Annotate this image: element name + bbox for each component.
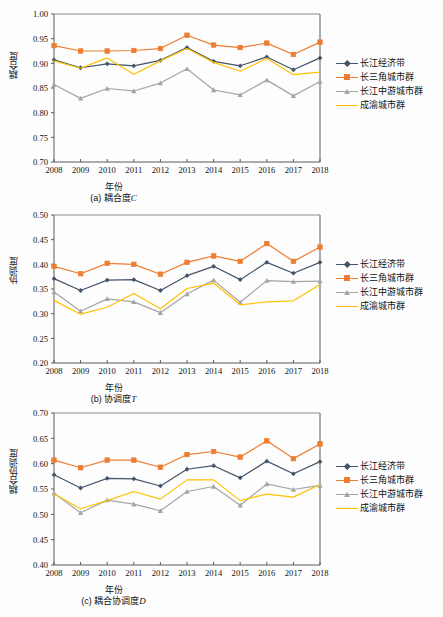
y-tick-label: 0.70 (33, 408, 48, 418)
x-tick-label: 2013 (178, 165, 195, 175)
caption-b-symbol: T (131, 394, 136, 404)
legend-item: 长三角城市群 (336, 70, 423, 84)
series-marker (78, 271, 83, 276)
caption-c: (c) 耦合协调度D (0, 594, 335, 607)
series-marker (291, 259, 296, 264)
x-tick-label: 2012 (152, 568, 169, 578)
x-tick-label: 2012 (152, 165, 169, 175)
x-tick-label: 2009 (72, 165, 89, 175)
legend-item: 长江经济带 (336, 56, 423, 70)
series-marker (318, 442, 323, 447)
series-marker (318, 56, 323, 61)
y-tick-label: 0.45 (33, 235, 48, 245)
chart-panel-c: 0.400.450.500.550.600.650.70200820092010… (0, 405, 443, 617)
caption-b: (b) 协调度T (0, 392, 335, 405)
x-tick-label: 2013 (178, 366, 195, 376)
legend-swatch-icon (336, 300, 358, 312)
series-marker (291, 456, 296, 461)
y-tick-label: 1.00 (33, 9, 48, 19)
legend-c: 长江经济带长三角城市群长江中游城市群成渝城市群 (336, 459, 423, 515)
y-tick-label: 0.75 (33, 133, 48, 143)
series-marker (265, 41, 270, 46)
x-tick-label: 2014 (205, 568, 223, 578)
series-marker (291, 271, 296, 276)
y-axis-title-c: 耦合协调度 (6, 449, 19, 494)
caption-a-text: (a) 耦合度 (90, 193, 131, 203)
y-axis-title-b: 协调度 (6, 257, 19, 284)
series-marker (185, 260, 190, 265)
x-tick-label: 2015 (232, 165, 249, 175)
legend-item-label: 长三角城市群 (360, 473, 414, 487)
series-marker (78, 465, 83, 470)
series-marker (52, 264, 57, 269)
caption-c-text: (c) 耦合协调度 (81, 596, 139, 606)
series-line (54, 283, 320, 314)
legend-swatch-icon (336, 272, 358, 284)
y-axis-title-a: 耦合度 (6, 52, 19, 79)
x-tick-label: 2008 (45, 568, 62, 578)
series-marker (158, 46, 163, 51)
legend-item: 长江中游城市群 (336, 84, 423, 98)
y-tick-label: 0.80 (33, 108, 48, 118)
series-marker (211, 264, 216, 269)
x-tick-label: 2011 (125, 165, 142, 175)
series-marker (211, 449, 216, 454)
legend-item: 成渝城市群 (336, 98, 423, 112)
caption-c-symbol: D (139, 596, 146, 606)
legend-item-label: 长江经济带 (360, 257, 405, 271)
legend-swatch-icon (336, 502, 358, 514)
series-marker (185, 33, 190, 38)
series-marker (265, 439, 270, 444)
y-tick-label: 0.40 (33, 260, 48, 270)
chart-panel-b: 0.200.250.300.350.400.450.50200820092010… (0, 205, 443, 405)
series-marker (105, 278, 110, 283)
y-tick-label: 0.55 (33, 484, 48, 494)
series-marker (211, 254, 216, 259)
series-marker (318, 245, 323, 250)
series-marker (185, 452, 190, 457)
legend-swatch-icon (336, 85, 358, 97)
legend-item-label: 成渝城市群 (360, 501, 405, 515)
y-tick-label: 0.85 (33, 83, 48, 93)
legend-item: 成渝城市群 (336, 299, 423, 313)
legend-a: 长江经济带长三角城市群长江中游城市群成渝城市群 (336, 56, 423, 112)
y-tick-label: 0.45 (33, 535, 48, 545)
legend-item: 长三角城市群 (336, 271, 423, 285)
legend-item: 长江经济带 (336, 257, 423, 271)
legend-swatch-icon (336, 71, 358, 83)
series-marker (52, 472, 57, 477)
series-marker (318, 459, 323, 464)
x-tick-label: 2010 (99, 165, 116, 175)
series-marker (291, 52, 296, 57)
series-marker (105, 61, 110, 66)
series-marker (78, 49, 83, 54)
y-tick-label: 0.30 (33, 309, 48, 319)
legend-swatch-icon (336, 286, 358, 298)
x-tick-label: 2017 (285, 165, 303, 175)
series-marker (158, 288, 163, 293)
series-marker (78, 486, 83, 491)
series-marker (184, 66, 189, 71)
series-marker (132, 262, 137, 267)
series-marker (158, 272, 163, 277)
x-tick-label: 2012 (152, 366, 169, 376)
series-marker (238, 63, 243, 68)
x-tick-label: 2017 (285, 366, 303, 376)
series-marker (238, 259, 243, 264)
series-marker (51, 82, 56, 87)
series-marker (105, 458, 110, 463)
series-marker (291, 67, 296, 72)
x-tick-label: 2016 (258, 366, 276, 376)
series-marker (211, 43, 216, 48)
x-tick-label: 2014 (205, 366, 223, 376)
series-marker (265, 241, 270, 246)
series-marker (238, 45, 243, 50)
legend-item-label: 长江中游城市群 (360, 84, 423, 98)
legend-swatch-icon (336, 460, 358, 472)
legend-item: 长三角城市群 (336, 473, 423, 487)
series-line (54, 480, 320, 509)
x-tick-label: 2015 (232, 366, 249, 376)
legend-item-label: 成渝城市群 (360, 299, 405, 313)
legend-item-label: 长江经济带 (360, 56, 405, 70)
legend-item: 长江中游城市群 (336, 285, 423, 299)
